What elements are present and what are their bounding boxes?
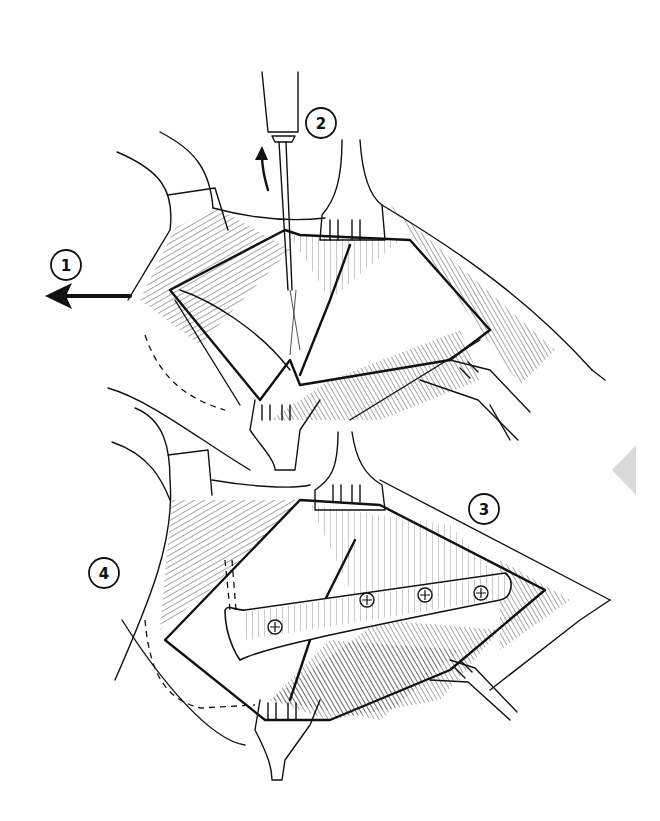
dashed-incision-upper (145, 335, 225, 410)
muscle-left-hatch (140, 208, 290, 345)
step-label-1: 1 (51, 250, 81, 280)
lower-panel (112, 408, 610, 780)
screw-icon (268, 620, 282, 634)
screw-icon (474, 586, 488, 600)
label-1-text: 1 (61, 257, 71, 275)
label-4-text: 4 (99, 565, 109, 583)
step-label-4: 4 (89, 558, 119, 588)
label-2-text: 2 (316, 115, 326, 133)
elevator-handle (262, 72, 298, 132)
surgical-illustration: 1 2 3 4 (0, 0, 660, 821)
prev-page-triangle-icon[interactable] (612, 445, 636, 495)
label-3-text: 3 (479, 501, 489, 519)
screw-icon (418, 588, 432, 602)
step-label-2: 2 (306, 108, 336, 138)
step-label-3: 3 (469, 494, 499, 524)
screw-icon (360, 593, 374, 607)
